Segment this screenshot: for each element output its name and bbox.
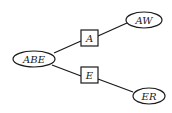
edge-e-er: [98, 79, 133, 92]
edge-abe-e: [52, 65, 81, 76]
node-aw: AW: [126, 12, 162, 28]
node-er-label: ER: [141, 91, 157, 102]
node-e-label: E: [85, 70, 94, 81]
node-e: E: [81, 67, 98, 83]
node-abe: ABE: [13, 51, 55, 67]
edge-a-aw: [98, 23, 127, 36]
node-a: A: [81, 30, 98, 46]
node-a-label: A: [85, 33, 93, 44]
node-er: ER: [133, 88, 165, 104]
node-aw-label: AW: [134, 15, 153, 26]
edge-abe-a: [54, 41, 81, 53]
junction-tree-diagram: ABE A AW E ER: [0, 0, 172, 113]
node-abe-label: ABE: [22, 54, 46, 65]
